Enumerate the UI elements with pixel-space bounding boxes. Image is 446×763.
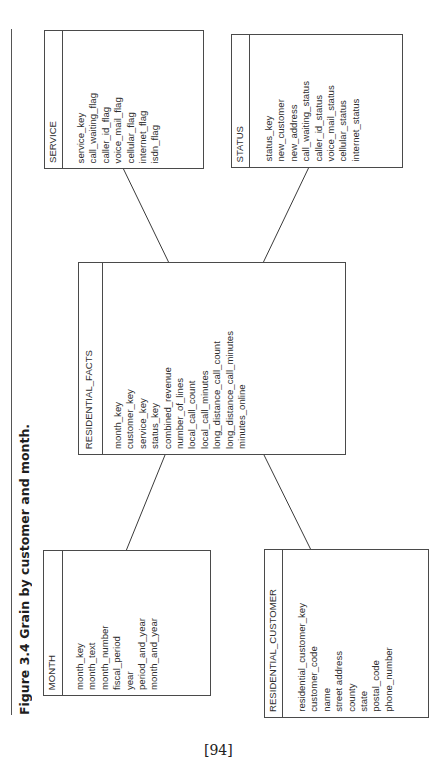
field: year [124, 618, 136, 690]
field: minutes_online [236, 331, 248, 449]
entity-header: RESIDENTIAL_FACTS [79, 263, 103, 454]
field: cellular_flag [125, 93, 137, 163]
link-facts-month [126, 455, 165, 551]
field: long_distance_call_minutes [224, 331, 236, 449]
field: month_number [99, 618, 111, 690]
entity-header: MONTH [44, 551, 63, 695]
field: voice_mail_flag [112, 93, 124, 163]
field-list: month_key customer_key service_key statu… [112, 331, 248, 449]
field: customer_key [124, 331, 136, 449]
field: month_text [86, 618, 98, 690]
entity-name: STATUS [234, 126, 246, 162]
field: combined_revenue [162, 331, 174, 449]
field: period_and_year [136, 618, 148, 690]
field: service_key [75, 93, 87, 163]
field: service_key [137, 331, 149, 449]
field: call_waiting_status [300, 81, 312, 162]
field: phone_number [383, 603, 395, 712]
field: status_key [149, 331, 161, 449]
field: month_key [112, 331, 124, 449]
field: internet_status [350, 81, 362, 162]
field: county [346, 603, 358, 712]
field: local_call_minutes [199, 331, 211, 449]
entity-header: SERVICE [45, 31, 63, 168]
entity-name: SERVICE [47, 121, 59, 163]
field: voice_mail_status [325, 81, 337, 162]
field: status_key [263, 81, 275, 162]
field: month_key [74, 618, 86, 690]
entity-residential-customer: RESIDENTIAL_CUSTOMER residential_custome… [264, 549, 429, 718]
field: fiscal_period [111, 618, 123, 690]
entity-service: SERVICE service_key call_waiting_flag ca… [44, 30, 204, 169]
field-list: service_key call_waiting_flag caller_id_… [75, 93, 162, 163]
field: caller_id_flag [100, 93, 112, 163]
entity-month: MONTH month_key month_text month_number … [43, 550, 211, 696]
field: name [321, 603, 333, 712]
field: residential_customer_key [296, 603, 308, 712]
field-list: residential_customer_key customer_code n… [296, 603, 395, 712]
entity-header: STATUS [232, 35, 250, 167]
field: street address [333, 603, 345, 712]
field: call_waiting_flag [87, 93, 99, 163]
link-facts-customer [264, 455, 311, 550]
entity-name: RESIDENTIAL_CUSTOMER [267, 589, 279, 712]
field: customer_code [308, 603, 320, 712]
field: isdn_flag [149, 93, 161, 163]
field: new_customer [275, 81, 287, 162]
link-facts-status [263, 167, 309, 263]
field: local_call_count [186, 331, 198, 449]
field: internet_flag [137, 93, 149, 163]
field: number_of_lines [174, 331, 186, 449]
field-list: month_key month_text month_number fiscal… [74, 618, 161, 690]
link-facts-service [123, 168, 169, 263]
field: caller_id_status [313, 81, 325, 162]
field: month_and_year [148, 618, 160, 690]
entity-name: MONTH [46, 655, 58, 690]
entity-name: RESIDENTIAL_FACTS [83, 350, 95, 449]
entity-residential-facts: RESIDENTIAL_FACTS month_key customer_key… [78, 262, 346, 455]
field: new_address [288, 81, 300, 162]
field: postal_code [370, 603, 382, 712]
field: state [358, 603, 370, 712]
page-number: [94] [204, 742, 233, 758]
field-list: status_key new_customer new_address call… [263, 81, 362, 162]
field: cellular_status [337, 81, 349, 162]
field: long_distance_call_count [211, 331, 223, 449]
entity-status: STATUS status_key new_customer new_addre… [231, 34, 403, 168]
entity-header: RESIDENTIAL_CUSTOMER [265, 550, 283, 717]
